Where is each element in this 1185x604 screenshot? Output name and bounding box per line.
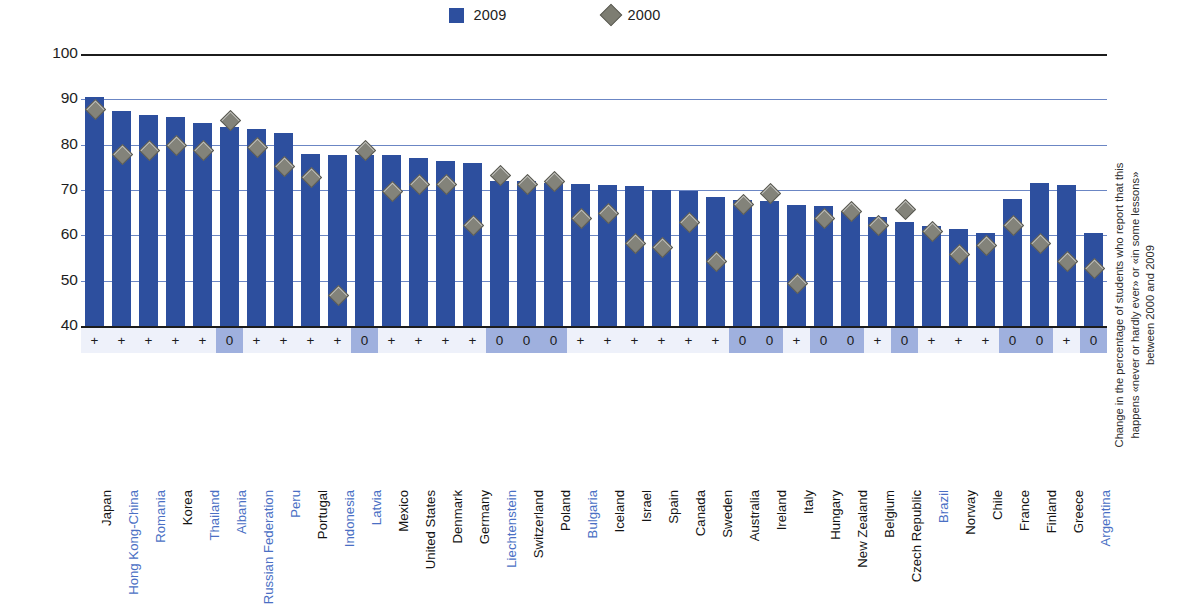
category-label: Finland xyxy=(1045,490,1058,533)
marker-2000-icon xyxy=(895,199,916,220)
bar-column xyxy=(162,54,189,326)
bar-column xyxy=(243,54,270,326)
category-label: Mexico xyxy=(397,490,410,532)
category-label: Poland xyxy=(559,490,572,531)
category-label: Belgium xyxy=(883,490,896,538)
significance-cell: 0 xyxy=(1026,328,1053,353)
significance-cell: + xyxy=(1053,328,1080,353)
bar-column xyxy=(189,54,216,326)
bar-column xyxy=(864,54,891,326)
bar-column xyxy=(1026,54,1053,326)
bar-2009 xyxy=(760,201,779,326)
bar-column xyxy=(540,54,567,326)
significance-cell: 0 xyxy=(999,328,1026,353)
significance-cell: 0 xyxy=(486,328,513,353)
category-label: Canada xyxy=(694,490,707,536)
category-label: Iceland xyxy=(613,490,626,533)
bar-2009 xyxy=(247,129,266,326)
significance-cell: + xyxy=(864,328,891,353)
y-tick-label-50: 50 xyxy=(32,271,78,289)
category-label: Hungary xyxy=(829,490,842,540)
category-label: Brazil xyxy=(937,490,950,523)
legend-item-2000: 2000 xyxy=(603,7,661,23)
category-label: Thailand xyxy=(208,490,221,541)
significance-cell: + xyxy=(189,328,216,353)
significance-cell: 0 xyxy=(756,328,783,353)
category-label: Norway xyxy=(964,490,977,535)
category-label: Italy xyxy=(802,490,815,514)
bar-2009 xyxy=(787,205,806,326)
bar-column xyxy=(432,54,459,326)
significance-cell: + xyxy=(135,328,162,353)
bar-column xyxy=(513,54,540,326)
significance-cell: + xyxy=(243,328,270,353)
significance-cell: + xyxy=(378,328,405,353)
significance-cell: + xyxy=(459,328,486,353)
y-tick-label-70: 70 xyxy=(32,180,78,198)
category-label: Chile xyxy=(991,490,1004,520)
bar-column xyxy=(1080,54,1107,326)
significance-cell: 0 xyxy=(1080,328,1107,353)
legend-label-2009: 2009 xyxy=(473,7,506,23)
significance-cell: 0 xyxy=(729,328,756,353)
significance-cell: + xyxy=(621,328,648,353)
category-label: Bulgaria xyxy=(586,490,599,538)
category-label: Australia xyxy=(748,490,761,541)
bar-2009 xyxy=(841,211,860,326)
bar-column xyxy=(324,54,351,326)
bars-and-markers xyxy=(81,54,1107,326)
bar-column xyxy=(702,54,729,326)
bar-column xyxy=(945,54,972,326)
significance-cell: + xyxy=(783,328,810,353)
category-label: Israel xyxy=(640,490,653,522)
bar-column xyxy=(810,54,837,326)
significance-cell: + xyxy=(648,328,675,353)
bar-column xyxy=(1053,54,1080,326)
bar-column xyxy=(270,54,297,326)
significance-cell: + xyxy=(594,328,621,353)
category-label: Portugal xyxy=(316,490,329,539)
significance-cell: 0 xyxy=(351,328,378,353)
category-label: Russian Federation xyxy=(262,490,275,604)
category-label: Spain xyxy=(667,490,680,524)
bar-column xyxy=(567,54,594,326)
significance-cell: 0 xyxy=(891,328,918,353)
bar-column xyxy=(378,54,405,326)
category-label: Romania xyxy=(154,490,167,543)
bar-2009 xyxy=(1084,233,1103,326)
significance-cell: + xyxy=(162,328,189,353)
bar-column xyxy=(108,54,135,326)
bar-column xyxy=(405,54,432,326)
significance-cell: 0 xyxy=(216,328,243,353)
significance-cell: 0 xyxy=(837,328,864,353)
bar-column xyxy=(297,54,324,326)
y-tick-label-80: 80 xyxy=(32,135,78,153)
category-label: Albania xyxy=(235,490,248,534)
significance-cell: + xyxy=(324,328,351,353)
bar-column xyxy=(999,54,1026,326)
bar-column xyxy=(216,54,243,326)
category-label: Greece xyxy=(1072,490,1085,533)
bar-column xyxy=(918,54,945,326)
category-label: Denmark xyxy=(451,490,464,544)
bar-column xyxy=(621,54,648,326)
legend-swatch-square-icon xyxy=(449,8,464,23)
bar-2009 xyxy=(571,184,590,326)
category-label: Argentina xyxy=(1099,490,1112,546)
significance-cell: + xyxy=(972,328,999,353)
bar-column xyxy=(486,54,513,326)
legend-label-2000: 2000 xyxy=(628,7,661,23)
significance-cell: + xyxy=(945,328,972,353)
bar-column xyxy=(756,54,783,326)
bar-column xyxy=(783,54,810,326)
bar-2009 xyxy=(490,181,509,326)
bar-column xyxy=(837,54,864,326)
bar-2009 xyxy=(85,97,104,326)
chart-legend: 2009 2000 xyxy=(0,2,1110,28)
significance-cell: + xyxy=(432,328,459,353)
significance-cell: 0 xyxy=(540,328,567,353)
significance-cell: + xyxy=(405,328,432,353)
bar-column xyxy=(351,54,378,326)
significance-cell: + xyxy=(702,328,729,353)
category-label: Liechtenstein xyxy=(505,490,518,568)
